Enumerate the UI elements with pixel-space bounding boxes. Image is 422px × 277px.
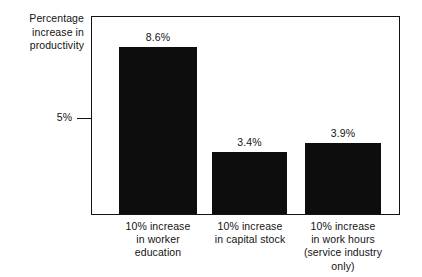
bar-caption-work-hours: 10% increase in work hours (service indu… [291,220,395,273]
bar-caption-line: in capital stock [198,233,302,246]
y-axis-tick-label-5: 5% [44,111,72,124]
y-axis-label-line-3: productivity [8,39,84,53]
bar-worker-education [119,47,197,214]
bar-value-label-worker-education: 8.6% [119,31,197,44]
bar-caption-line: in work hours [291,233,395,246]
bar-caption-line: 10% increase [291,220,395,233]
bar-value-label-work-hours: 3.9% [305,127,381,140]
bar-capital-stock [212,152,287,214]
bar-caption-line: 10% increase [109,220,207,233]
y-axis-label-line-1: Percentage [8,12,84,26]
bar-caption-line: in worker [109,233,207,246]
bar-caption-line: (service industry [291,246,395,259]
y-axis-label: Percentage increase in productivity [8,12,84,53]
bar-caption-line: education [109,246,207,259]
bar-caption-worker-education: 10% increase in worker education [109,220,207,260]
bar-value-label-capital-stock: 3.4% [212,136,287,149]
bar-caption-line: only) [291,260,395,273]
y-axis-label-line-2: increase in [8,26,84,40]
bar-chart-figure: Percentage increase in productivity 5% 8… [0,0,422,277]
bar-caption-capital-stock: 10% increase in capital stock [198,220,302,246]
bar-work-hours [305,143,381,214]
bar-caption-line: 10% increase [198,220,302,233]
